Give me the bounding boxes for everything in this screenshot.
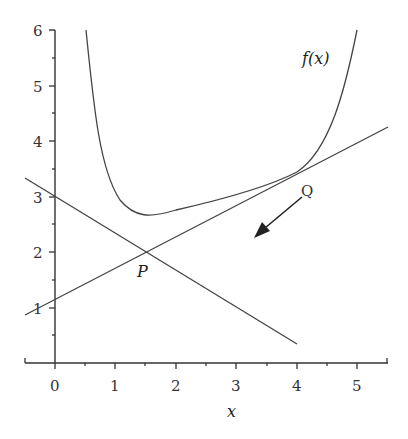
arrow-icon (265, 197, 302, 228)
x-tick-label: 0 (50, 377, 60, 395)
x-tick-label: 1 (110, 377, 120, 395)
y-tick-label: 2 (33, 244, 43, 262)
line-through-p (25, 178, 297, 344)
point-q-label: Q (301, 182, 313, 200)
y-tick-label: 3 (33, 189, 43, 207)
y-tick-label: 5 (33, 78, 43, 96)
x-tick-label: 4 (292, 377, 302, 395)
x-axis-label: x (227, 402, 236, 421)
y-tick-label: 6 (33, 22, 43, 40)
chart: 6 5 4 3 2 1 0 1 2 3 4 5 x f(x) P Q (0, 0, 408, 439)
x-tick-label: 2 (171, 377, 181, 395)
y-tick-label: 4 (33, 133, 43, 151)
arrowhead-icon (254, 222, 270, 238)
x-tick-label: 3 (231, 377, 241, 395)
point-p-label: P (136, 262, 148, 281)
function-label: f(x) (301, 49, 329, 68)
secant-line-pq (25, 127, 388, 315)
x-tick-label: 5 (352, 377, 362, 395)
